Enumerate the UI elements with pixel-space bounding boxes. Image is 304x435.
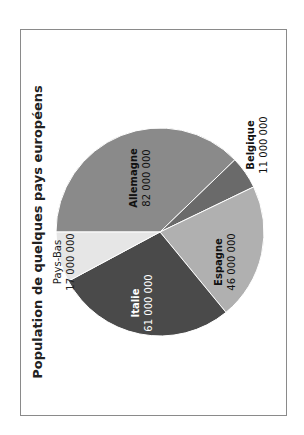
label-pays-bas-value: 17 000 000: [65, 233, 76, 290]
chart-title: Population de quelques pays européens: [30, 85, 45, 379]
label-allemagne-name: Allemagne: [128, 148, 139, 208]
pie-chart: Population de quelques pays européens Pa…: [0, 0, 304, 435]
label-italie-name: Italie: [130, 288, 141, 317]
label-belgique-value: 11 000 000: [258, 116, 269, 173]
pie-slices: [56, 128, 264, 336]
label-espagne-name: Espagne: [213, 238, 224, 286]
label-belgique-name: Belgique: [245, 120, 256, 170]
label-pays-bas-name: Pays-Bas: [52, 240, 63, 284]
label-espagne-value: 46 000 000: [226, 233, 237, 290]
label-allemagne-value: 82 000 000: [141, 149, 152, 206]
label-italie-value: 61 000 000: [143, 274, 154, 331]
